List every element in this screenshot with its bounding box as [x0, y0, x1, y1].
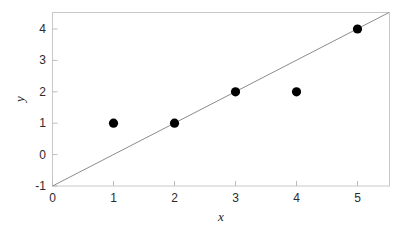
x-tick-label-1: 1 [110, 192, 117, 204]
y-axis-title: y [13, 96, 26, 102]
x-tick-label-3: 3 [232, 192, 239, 204]
y-tick-label-1: 1 [39, 117, 46, 129]
y-tick-label-minus1: -1 [35, 180, 46, 192]
x-tick-label-0: 0 [49, 192, 56, 204]
data-point [353, 24, 362, 33]
data-point [231, 87, 240, 96]
y-tick-label-4: 4 [39, 23, 46, 35]
y-axis-ticks [53, 29, 58, 186]
y-tick-label-0: 0 [39, 149, 46, 161]
fitted-regression-line [53, 13, 390, 187]
x-axis-title: x [218, 210, 224, 223]
data-point [109, 119, 118, 128]
y-tick-label-2: 2 [39, 86, 46, 98]
scatter-plot-figure: 0 1 2 3 4 5 -1 0 1 2 3 4 x y [0, 0, 407, 232]
x-tick-label-5: 5 [354, 192, 361, 204]
data-point [170, 119, 179, 128]
data-point [292, 87, 301, 96]
plot-canvas [0, 0, 407, 232]
y-tick-label-3: 3 [39, 54, 46, 66]
x-tick-label-2: 2 [171, 192, 178, 204]
x-axis-ticks [53, 181, 358, 186]
data-point-markers [109, 24, 362, 127]
x-tick-label-4: 4 [293, 192, 300, 204]
